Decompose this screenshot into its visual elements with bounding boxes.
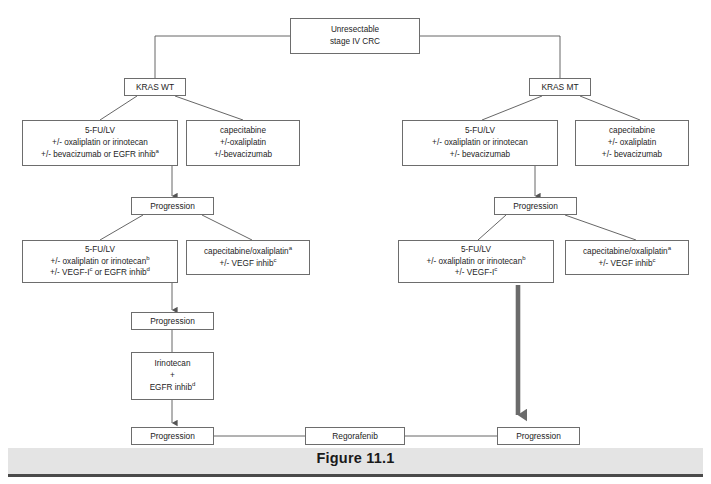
node-progression-mt-1[interactable]: Progression <box>494 197 577 215</box>
node-progression-wt-3[interactable]: Progression <box>131 427 214 445</box>
progression-mt-2-label: Progression <box>516 430 561 442</box>
wt-second-b-line-1: capecitabine/oxaliplatina <box>204 246 292 258</box>
root-line-1: Unresectable <box>331 24 379 36</box>
mt-second-a-line-2: +/- oxaliplatin or irinotecanb <box>426 256 525 268</box>
mt-second-a-line-1: 5-FU/LV <box>461 244 491 256</box>
wt-first-a-line-3: +/- bevacizumab or EGFR inhiba <box>41 149 159 161</box>
kras-mt-label: KRAS MT <box>541 81 578 93</box>
node-progression-wt-1[interactable]: Progression <box>131 197 214 215</box>
mt-first-a-line-3: +/- bevacizumab <box>450 149 510 161</box>
figure-canvas: Unresectable stage IV CRC KRAS WT KRAS M… <box>0 0 711 484</box>
caption-rule <box>8 474 703 477</box>
mt-first-b-line-2: +/- oxaliplatin <box>608 137 656 149</box>
wt-third-line-3: EGFR inhibd <box>150 382 196 394</box>
node-wt-second-line-chemo[interactable]: 5-FU/LV +/- oxaliplatin or irinotecanb +… <box>22 240 178 283</box>
mt-second-a-line-3: +/- VEGF-Ic <box>455 267 497 279</box>
progression-wt-1-label: Progression <box>150 200 195 212</box>
node-wt-first-line-capecitabine[interactable]: capecitabine +/-oxaliplatin +/-bevacizum… <box>186 120 300 166</box>
progression-wt-3-label: Progression <box>150 430 195 442</box>
node-unresectable-stage-iv-crc[interactable]: Unresectable stage IV CRC <box>290 18 420 54</box>
wt-third-line-1: Irinotecan <box>155 358 191 370</box>
node-progression-mt-2[interactable]: Progression <box>497 427 580 445</box>
wt-second-a-line-2: +/- oxaliplatin or irinotecanb <box>50 256 149 268</box>
figure-caption: Figure 11.1 <box>0 450 711 466</box>
wt-first-b-line-2: +/-oxaliplatin <box>220 137 266 149</box>
regorafenib-label: Regorafenib <box>332 430 378 442</box>
mt-first-b-line-3: +/- bevacizumab <box>602 149 662 161</box>
wt-third-line-2: + <box>170 370 175 382</box>
mt-second-b-line-2: +/- VEGF inhibc <box>599 258 656 270</box>
progression-wt-2-label: Progression <box>150 315 195 327</box>
node-wt-first-line-chemo[interactable]: 5-FU/LV +/- oxaliplatin or irinotecan +/… <box>22 120 178 166</box>
mt-first-a-line-1: 5-FU/LV <box>465 125 495 137</box>
node-mt-second-line-chemo[interactable]: 5-FU/LV +/- oxaliplatin or irinotecanb +… <box>398 240 554 283</box>
node-mt-first-line-chemo[interactable]: 5-FU/LV +/- oxaliplatin or irinotecan +/… <box>402 120 558 166</box>
node-kras-mt[interactable]: KRAS MT <box>529 78 591 96</box>
mt-first-b-line-1: capecitabine <box>609 125 655 137</box>
wt-first-b-line-3: +/-bevacizumab <box>214 149 272 161</box>
node-mt-first-line-capecitabine[interactable]: capecitabine +/- oxaliplatin +/- bevaciz… <box>575 120 689 166</box>
wt-second-a-line-3: +/- VEGF-Ic or EGFR inhibd <box>50 267 150 279</box>
wt-first-b-line-1: capecitabine <box>220 125 266 137</box>
mt-first-a-line-2: +/- oxaliplatin or irinotecan <box>432 137 528 149</box>
wt-first-a-line-2: +/- oxaliplatin or irinotecan <box>52 137 148 149</box>
kras-wt-label: KRAS WT <box>136 81 174 93</box>
node-irinotecan-plus-egfr-inhibitor[interactable]: Irinotecan + EGFR inhibd <box>131 352 214 400</box>
node-progression-wt-2[interactable]: Progression <box>131 312 214 330</box>
node-wt-second-line-capecitabine-oxaliplatin[interactable]: capecitabine/oxaliplatina +/- VEGF inhib… <box>186 240 310 275</box>
node-mt-second-line-capecitabine-oxaliplatin[interactable]: capecitabine/oxaliplatina +/- VEGF inhib… <box>565 240 689 275</box>
node-kras-wt[interactable]: KRAS WT <box>124 78 186 96</box>
node-regorafenib[interactable]: Regorafenib <box>305 427 405 445</box>
wt-first-a-line-1: 5-FU/LV <box>85 125 115 137</box>
wt-second-b-line-2: +/- VEGF inhibc <box>220 258 277 270</box>
mt-second-b-line-1: capecitabine/oxaliplatina <box>583 246 671 258</box>
progression-mt-1-label: Progression <box>513 200 558 212</box>
root-line-2: stage IV CRC <box>330 36 380 48</box>
wt-second-a-line-1: 5-FU/LV <box>85 244 115 256</box>
